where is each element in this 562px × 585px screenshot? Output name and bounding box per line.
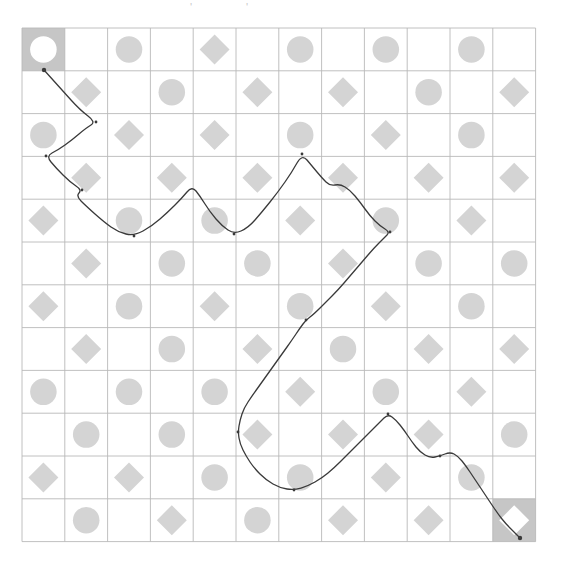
cell-shape-diamond: [242, 77, 272, 107]
cell-shape-diamond: [114, 120, 144, 150]
cell-shape-circle: [458, 293, 485, 320]
cell-shape-circle: [458, 36, 485, 63]
cell-shape-diamond: [157, 505, 187, 535]
cell-shape-diamond: [328, 248, 358, 278]
cell-shape-circle: [458, 464, 485, 491]
waypoint-marker: [439, 455, 442, 458]
stray-mark-left: ': [190, 2, 192, 13]
cell-shape-diamond: [285, 206, 315, 236]
cell-shape-diamond: [28, 206, 58, 236]
cell-shape-diamond: [28, 291, 58, 321]
cell-shape-diamond: [71, 248, 101, 278]
cell-shape-diamond: [371, 120, 401, 150]
cell-shape-diamond: [499, 163, 529, 193]
waypoint-marker: [95, 121, 98, 124]
cell-shape-circle: [159, 336, 186, 363]
cell-shape-diamond: [71, 77, 101, 107]
cell-shape-diamond: [371, 291, 401, 321]
cell-shape-circle: [330, 336, 357, 363]
stray-mark-right: ': [246, 2, 248, 13]
cell-shape-diamond: [499, 77, 529, 107]
cell-shape-circle: [73, 421, 100, 448]
cell-shape-circle: [244, 507, 271, 534]
cell-shape-diamond: [414, 420, 444, 450]
cell-shape-circle: [201, 207, 228, 234]
cell-shape-diamond: [242, 334, 272, 364]
cell-shape-diamond: [28, 462, 58, 492]
cell-shape-circle: [287, 36, 314, 63]
cell-shape-diamond: [200, 291, 230, 321]
cell-shape-diamond: [328, 77, 358, 107]
cell-shape-circle: [116, 36, 143, 63]
cell-shape-diamond: [328, 420, 358, 450]
cell-shape-circle: [415, 250, 442, 277]
cell-shape-diamond: [499, 334, 529, 364]
waypoint-marker: [233, 233, 236, 236]
cell-shape-diamond: [414, 163, 444, 193]
cell-shape-diamond: [371, 462, 401, 492]
cell-shape-circle: [116, 207, 143, 234]
waypoint-marker: [81, 189, 84, 192]
cell-shape-circle: [287, 464, 314, 491]
cell-shape-diamond: [414, 334, 444, 364]
cell-shape-diamond: [328, 505, 358, 535]
cell-shape-circle: [287, 293, 314, 320]
cell-shape-diamond: [414, 505, 444, 535]
path-layer: [44, 70, 520, 538]
cell-shape-diamond: [71, 163, 101, 193]
cell-shape-circle: [116, 379, 143, 406]
cell-shape-circle: [201, 379, 228, 406]
cell-shape-diamond: [114, 462, 144, 492]
cell-shape-circle: [201, 464, 228, 491]
cell-shape-circle: [73, 507, 100, 534]
cell-shape-diamond: [456, 377, 486, 407]
cell-shape-circle: [458, 122, 485, 149]
cell-shape-circle: [159, 79, 186, 106]
cell-shape-diamond: [200, 120, 230, 150]
cell-shape-circle: [287, 122, 314, 149]
path-end-marker: [518, 536, 522, 540]
cell-shape-circle: [373, 379, 400, 406]
waypoint-marker: [45, 155, 48, 158]
waypoint-marker: [389, 231, 392, 234]
waypoint-marker: [133, 235, 136, 238]
cell-shape-circle: [501, 421, 528, 448]
waypoint-marker: [387, 413, 390, 416]
cell-shape-diamond: [242, 420, 272, 450]
waypoint-marker: [293, 489, 296, 492]
cell-shape-diamond: [157, 163, 187, 193]
cell-shape-diamond: [456, 206, 486, 236]
cell-shape-circle: [116, 293, 143, 320]
cell-shape-circle: [159, 250, 186, 277]
cell-shape-circle: [30, 379, 57, 406]
cell-shape-circle: [244, 250, 271, 277]
waypoint-marker: [237, 431, 240, 434]
waypoint-marker: [305, 319, 308, 322]
shape-grid-maze-canvas: [0, 0, 562, 585]
cell-shape-diamond: [242, 163, 272, 193]
cell-shape-diamond: [328, 163, 358, 193]
cell-shape-circle: [415, 79, 442, 106]
drawn-path-stroke: [44, 70, 520, 538]
cell-shape-circle: [373, 36, 400, 63]
cell-shape-diamond: [200, 34, 230, 64]
cell-shape-circle: [501, 250, 528, 277]
cell-shape-diamond: [71, 334, 101, 364]
cell-shape-diamond: [285, 377, 315, 407]
start-cell-circle: [30, 36, 57, 63]
cell-shape-circle: [30, 122, 57, 149]
grid-lines-layer: [22, 28, 536, 542]
waypoint-marker: [301, 153, 304, 156]
cell-shape-circle: [159, 421, 186, 448]
path-start-marker: [42, 68, 46, 72]
